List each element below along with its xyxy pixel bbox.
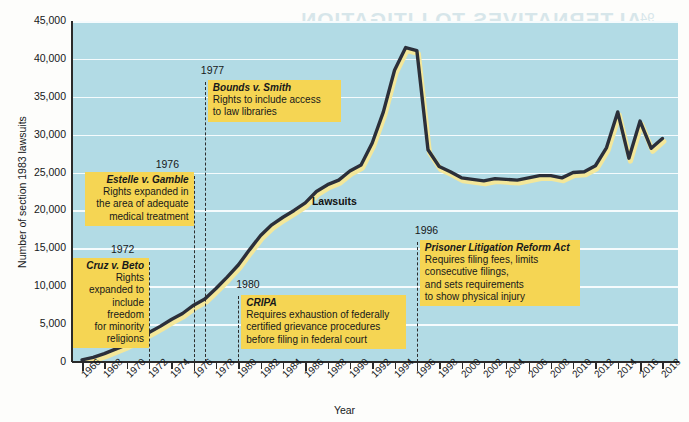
annotation-marker-line-prisoner-litigation-reform-act: [417, 242, 418, 362]
annotation-body-line: expanded to: [78, 284, 144, 296]
annotation-marker-line-cruz-v-beto: [149, 262, 150, 362]
y-axis-tick-label: 40,000: [34, 52, 66, 64]
y-axis-tick-label: 10,000: [34, 279, 66, 291]
series-label-lawsuits: Lawsuits: [312, 195, 357, 207]
y-axis-tick-label: 5,000: [40, 317, 66, 329]
y-axis-tick-label: 45,000: [34, 14, 66, 26]
annotation-note-bounds-v-smith: Bounds v. SmithRights to include accesst…: [208, 80, 341, 122]
annotation-year-cruz-v-beto: 1972: [111, 243, 134, 255]
annotation-body-line: to show physical injury: [425, 291, 575, 303]
annotation-case-name: Bounds v. Smith: [213, 82, 336, 94]
annotation-body-line: the area of adequate: [90, 198, 189, 210]
annotation-marker-line-bounds-v-smith: [205, 82, 206, 362]
y-axis-tick-label: 25,000: [34, 166, 66, 178]
annotation-body-line: religions: [78, 333, 144, 345]
annotation-body-line: Rights: [78, 272, 144, 284]
y-axis-tick-label: 20,000: [34, 203, 66, 215]
y-axis-tick-label: 0: [60, 355, 66, 367]
annotation-body-line: Rights expanded in: [90, 186, 189, 198]
annotation-case-name: Prisoner Litigation Reform Act: [425, 242, 575, 254]
y-axis-title: Number of section 1983 lawsuits: [16, 52, 28, 332]
annotation-body-line: before filing in federal court: [246, 334, 401, 346]
annotation-body-line: for minority: [78, 321, 144, 333]
chart-figure: ALTERNATIVES TO LITIGATION 94 tives have…: [0, 0, 689, 422]
annotation-note-cripa: CRIPARequires exhaustion of federallycer…: [241, 295, 406, 349]
annotation-body-line: include: [78, 297, 144, 309]
annotation-case-name: CRIPA: [246, 297, 401, 309]
annotation-body-line: Requires filing fees, limits: [425, 254, 575, 266]
annotation-note-prisoner-litigation-reform-act: Prisoner Litigation Reform ActRequires f…: [420, 240, 580, 306]
annotation-marker-line-estelle-v-gamble: [194, 176, 195, 362]
annotation-case-name: Estelle v. Gamble: [90, 174, 189, 186]
annotation-year-prisoner-litigation-reform-act: 1996: [415, 224, 438, 236]
annotation-note-estelle-v-gamble: Estelle v. GambleRights expanded inthe a…: [85, 172, 194, 226]
annotation-note-cruz-v-beto: Cruz v. BetoRightsexpanded toincludefree…: [73, 258, 149, 348]
annotation-body-line: Requires exhaustion of federally: [246, 309, 401, 321]
y-axis-tick-label: 35,000: [34, 90, 66, 102]
annotation-body-line: to law libraries: [213, 106, 336, 118]
annotation-body-line: consecutive filings,: [425, 266, 575, 278]
annotation-year-bounds-v-smith: 1977: [201, 64, 224, 76]
annotation-year-cripa: 1980: [236, 278, 259, 290]
annotation-body-line: Rights to include access: [213, 94, 336, 106]
annotation-marker-line-cripa: [238, 296, 239, 362]
annotation-body-line: certified grievance procedures: [246, 321, 401, 333]
annotation-body-line: medical treatment: [90, 211, 189, 223]
annotation-body-line: freedom: [78, 309, 144, 321]
y-axis-tick-label: 30,000: [34, 128, 66, 140]
annotation-year-estelle-v-gamble: 1976: [156, 158, 179, 170]
annotation-body-line: and sets requirements: [425, 279, 575, 291]
y-axis-tick-label: 15,000: [34, 241, 66, 253]
x-axis-title: Year: [0, 404, 689, 416]
y-axis-tick-labels: 05,00010,00015,00020,00025,00030,00035,0…: [0, 0, 66, 422]
annotation-case-name: Cruz v. Beto: [78, 260, 144, 272]
